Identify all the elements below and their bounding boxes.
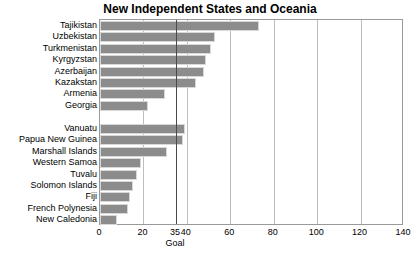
bar-fill	[100, 204, 128, 214]
gridline-120	[361, 20, 362, 224]
bar-fill	[100, 170, 137, 180]
gridline-80	[274, 20, 275, 224]
category-label: Georgia	[65, 100, 97, 110]
category-label: Uzbekistan	[52, 31, 97, 41]
bar	[100, 55, 206, 65]
bar-fill	[100, 124, 185, 134]
category-label: Vanuatu	[64, 123, 97, 133]
bar	[100, 32, 215, 42]
category-label: Tajikistan	[60, 20, 97, 30]
x-tick-label-60: 60	[224, 227, 234, 237]
bar	[100, 101, 148, 111]
bar-fill	[100, 32, 215, 42]
category-label: Armenia	[63, 88, 97, 98]
bar-fill	[100, 135, 183, 145]
category-axis-labels: TajikistanUzbekistanTurkmenistanKyrgyzst…	[0, 19, 99, 225]
bar	[100, 89, 165, 99]
x-tick-label-100: 100	[309, 227, 324, 237]
bar-fill	[100, 21, 259, 31]
x-tick-label-0: 0	[96, 227, 101, 237]
bar	[100, 124, 185, 134]
category-label: Solomon Islands	[30, 180, 97, 190]
x-tick-label-120: 120	[352, 227, 367, 237]
plot-area	[99, 19, 403, 225]
x-tick-label-40: 40	[181, 227, 191, 237]
bar-fill	[100, 192, 130, 202]
bar	[100, 170, 137, 180]
bar-fill	[100, 158, 141, 168]
bar-fill	[100, 78, 196, 88]
bar-fill	[100, 147, 167, 157]
bar-fill	[100, 67, 204, 77]
bar	[100, 147, 167, 157]
category-label: Turkmenistan	[43, 43, 97, 53]
x-tick-label-140: 140	[395, 227, 410, 237]
x-tick-label-20: 20	[137, 227, 147, 237]
category-label: Marshall Islands	[32, 146, 97, 156]
x-tick-label-80: 80	[268, 227, 278, 237]
bar	[100, 78, 196, 88]
x-tick-label-35: 35	[170, 227, 180, 237]
bar	[100, 204, 128, 214]
category-label: New Caledonia	[36, 214, 97, 224]
category-label: Papua New Guinea	[19, 134, 97, 144]
bar-fill	[100, 101, 148, 111]
bar-fill	[100, 89, 165, 99]
category-label: Fiji	[86, 191, 98, 201]
bar-fill	[100, 181, 133, 191]
bar	[100, 21, 259, 31]
bar-fill	[100, 215, 117, 225]
bar	[100, 158, 141, 168]
bar-chart: New Independent States and Oceania Tajik…	[0, 0, 420, 254]
category-label: Kazakstan	[55, 77, 97, 87]
bar-fill	[100, 44, 211, 54]
gridline-60	[230, 20, 231, 224]
category-label: Azerbaijan	[54, 66, 97, 76]
bar	[100, 215, 117, 225]
category-label: Western Samoa	[33, 157, 97, 167]
goal-reference-line	[176, 20, 177, 224]
bar	[100, 181, 133, 191]
category-label: Kyrgyzstan	[52, 54, 97, 64]
category-label: Tuvalu	[70, 169, 97, 179]
bar	[100, 44, 211, 54]
bar	[100, 192, 130, 202]
bar	[100, 135, 183, 145]
bar-fill	[100, 55, 206, 65]
gridline-100	[317, 20, 318, 224]
bar	[100, 67, 204, 77]
category-label: French Polynesia	[27, 203, 97, 213]
goal-caption: Goal	[165, 238, 184, 248]
chart-title: New Independent States and Oceania	[0, 2, 420, 16]
